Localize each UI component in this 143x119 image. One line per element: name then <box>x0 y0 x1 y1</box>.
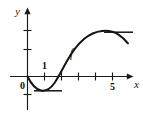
x-axis-label: x <box>133 79 139 90</box>
x-axis-arrow-icon <box>127 73 134 79</box>
function-graph-svg: y x 0 1 5 f <box>0 0 143 119</box>
labels-group: y x 0 1 5 f <box>14 6 139 92</box>
y-axis-arrow-icon <box>24 8 30 15</box>
x-tick-label-5: 5 <box>110 81 115 92</box>
x-tick-label-1: 1 <box>42 60 47 71</box>
y-axis-label: y <box>14 6 20 17</box>
graph-figure: y x 0 1 5 f <box>0 0 143 119</box>
y-axis-group <box>24 8 32 111</box>
origin-label: 0 <box>20 80 25 91</box>
tangent-lines-group <box>34 32 133 91</box>
